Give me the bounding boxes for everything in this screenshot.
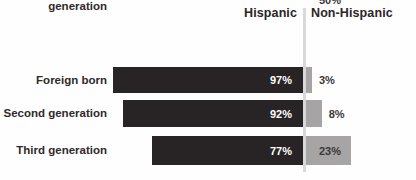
hispanic-bar: 97% [113,67,303,93]
hispanic-value-label: 92% [270,108,303,120]
non-hispanic-value-label: 8% [329,108,345,120]
chart-row-foreign-born: Foreign born 97% 3% [0,67,416,93]
non-hispanic-bar: 23% [306,136,351,165]
chart-row-second-generation: Second generation 92% 8% [0,100,416,127]
hispanic-value-label: 77% [270,145,303,157]
category-label: Third generation [0,136,107,165]
chart-row-third-generation: Third generation 77% 23% [0,136,416,165]
non-hispanic-value-label: 23% [306,145,341,157]
column-header-non-hispanic: Non-Hispanic [311,6,393,20]
non-hispanic-bar: 3% [306,67,312,93]
hispanic-value-label: 50% [270,0,303,6]
non-hispanic-bar: 8% [306,100,322,127]
hispanic-bar: 92% [123,100,303,127]
hispanic-value-label: 97% [270,74,303,86]
category-label: Foreign born [0,67,107,93]
non-hispanic-value-label: 50% [306,0,341,6]
generation-diverging-bar-chart: Hispanic Non-Hispanic Foreign born 97% 3… [0,0,416,180]
column-header-hispanic: Hispanic [244,6,297,20]
hispanic-bar: 77% [152,136,303,165]
category-label: Second generation [0,100,107,127]
non-hispanic-value-label: 3% [319,74,335,86]
